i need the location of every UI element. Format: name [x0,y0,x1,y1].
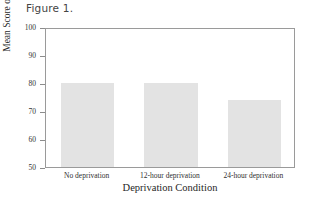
y-axis-tick: 60 [0,140,45,141]
y-axis-tick: 90 [0,56,45,57]
x-axis-tick-label: 24-hour deprivation [212,171,295,180]
x-axis-tick-label: No deprivation [45,171,128,180]
y-axis-tick-mark [40,168,45,169]
figure-caption: Figure 1. [26,2,73,14]
y-axis-tick-label: 80 [29,79,37,88]
bar [144,83,197,167]
y-axis-tick: 80 [0,84,45,85]
y-axis-tick: 50 [0,168,45,169]
figure-container: Figure 1. Mean Score on Concentration Te… [0,0,313,202]
y-axis-tick-label: 60 [29,135,37,144]
bar [61,83,114,167]
y-axis-tick-label: 90 [29,51,37,60]
bar [228,100,281,167]
plot-area [45,28,295,168]
y-axis-tick: 70 [0,112,45,113]
y-axis-tick-label: 70 [29,107,37,116]
x-axis-title: Deprivation Condition [45,182,295,193]
y-axis-tick-label: 100 [25,23,36,32]
x-axis-tick-label: 12-hour deprivation [128,171,211,180]
y-axis-tick-label: 50 [29,163,37,172]
y-axis-tick: 100 [0,28,45,29]
